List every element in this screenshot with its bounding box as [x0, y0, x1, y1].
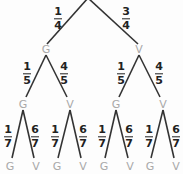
prob-l2-vg: 15 [117, 61, 125, 86]
prob-l2-gv: 45 [60, 61, 68, 86]
denominator: 7 [98, 139, 106, 150]
numerator: 1 [51, 124, 59, 135]
prob-l3-1: 17 [4, 124, 12, 149]
denominator: 5 [117, 76, 125, 87]
denominator: 5 [23, 76, 31, 87]
numerator: 1 [145, 124, 153, 135]
numerator: 1 [98, 124, 106, 135]
denominator: 7 [31, 139, 39, 150]
branch-root-v [88, 0, 138, 44]
denominator: 7 [4, 139, 12, 150]
numerator: 4 [155, 61, 163, 72]
numerator: 6 [172, 124, 180, 135]
prob-l3-6: 67 [125, 124, 133, 149]
leaf-8: V [172, 161, 180, 172]
numerator: 3 [122, 6, 130, 17]
denominator: 7 [172, 139, 180, 150]
node-l2-vv: V [159, 99, 167, 110]
leaf-7: G [146, 161, 155, 172]
numerator: 4 [60, 61, 68, 72]
prob-l2-vv: 45 [155, 61, 163, 86]
branch-gg-g [12, 110, 23, 158]
leaf-2: V [32, 161, 40, 172]
prob-l3-2: 67 [31, 124, 39, 149]
node-l2-gv: V [66, 99, 74, 110]
branch-gv-g [58, 110, 70, 158]
numerator: 1 [117, 61, 125, 72]
numerator: 6 [31, 124, 39, 135]
node-l1-g: G [42, 44, 51, 55]
denominator: 5 [60, 76, 68, 87]
denominator: 7 [51, 139, 59, 150]
prob-l1-v: 34 [122, 6, 130, 31]
leaf-1: G [6, 161, 15, 172]
node-l2-vg: G [112, 99, 121, 110]
leaf-3: G [53, 161, 62, 172]
numerator: 1 [54, 6, 62, 17]
leaf-5: G [100, 161, 109, 172]
leaf-6: V [126, 161, 134, 172]
prob-l3-7: 17 [145, 124, 153, 149]
leaf-4: V [79, 161, 87, 172]
prob-l3-8: 67 [172, 124, 180, 149]
prob-l3-4: 67 [79, 124, 87, 149]
prob-l2-gg: 15 [23, 61, 31, 86]
numerator: 6 [79, 124, 87, 135]
node-l2-gg: G [19, 99, 28, 110]
node-l1-v: V [135, 44, 143, 55]
prob-l3-3: 17 [51, 124, 59, 149]
prob-l3-5: 17 [98, 124, 106, 149]
denominator: 4 [54, 21, 62, 32]
numerator: 1 [23, 61, 31, 72]
numerator: 6 [125, 124, 133, 135]
denominator: 7 [125, 139, 133, 150]
denominator: 7 [79, 139, 87, 150]
denominator: 5 [155, 76, 163, 87]
denominator: 7 [145, 139, 153, 150]
branch-vg-g [105, 110, 116, 158]
prob-l1-g: 14 [54, 6, 62, 31]
denominator: 4 [122, 21, 130, 32]
numerator: 1 [4, 124, 12, 135]
